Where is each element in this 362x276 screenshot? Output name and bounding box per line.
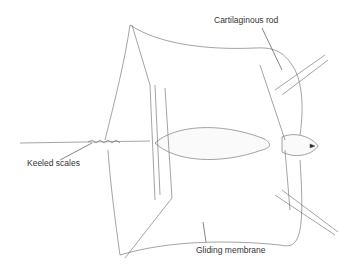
body [155,128,270,160]
diagram-canvas: Cartilaginous rod Keeled scales Gliding … [0,0,362,276]
leader-cartilaginous-rod [262,28,282,70]
tail [20,141,150,143]
leader-gliding-membrane [203,222,206,242]
upper-membrane [130,25,302,135]
forelimb-lower [275,190,338,235]
forelimb-upper [275,55,328,95]
label-cartilaginous-rod: Cartilaginous rod [214,15,278,25]
label-gliding-membrane: Gliding membrane [196,245,265,255]
label-keeled-scales: Keeled scales [27,158,80,168]
gliding-lizard-illustration [0,0,362,276]
lower-membrane [120,160,302,255]
